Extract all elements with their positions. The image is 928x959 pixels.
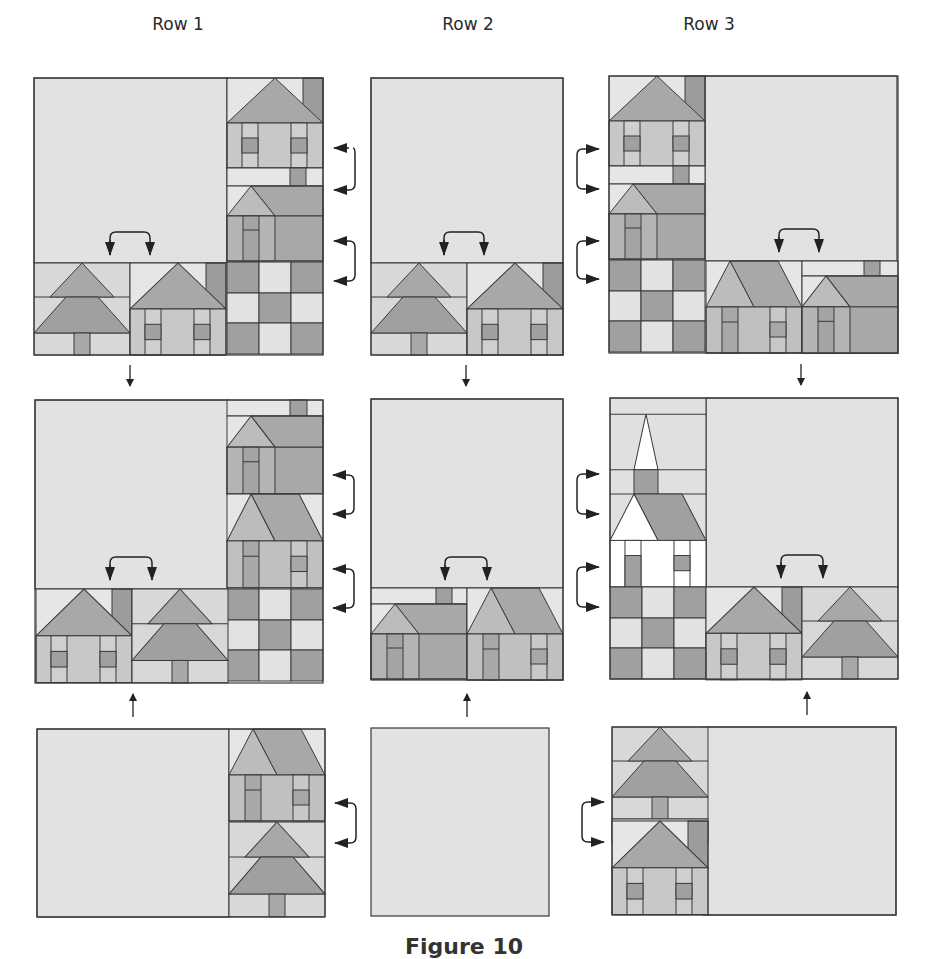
swap-arrows-row3-bottom [582, 802, 604, 842]
panel-row1-middle [35, 400, 354, 683]
down-arrows [130, 364, 801, 386]
panel-row2-middle [371, 399, 563, 680]
panel-row1-top [34, 78, 355, 355]
up-arrows [133, 692, 807, 717]
panel-row3-bottom [612, 727, 896, 915]
swap-arrows-row3-top [577, 149, 599, 279]
swap-arrows-row3-middle [577, 474, 599, 607]
panel-row2-bottom [371, 728, 549, 916]
panel-row1-bottom [37, 729, 356, 917]
panel-row3-top [609, 76, 898, 353]
figure-caption: Figure 10 [0, 934, 928, 959]
panel-row3-middle [610, 398, 898, 680]
panel-row2-top [371, 78, 563, 355]
